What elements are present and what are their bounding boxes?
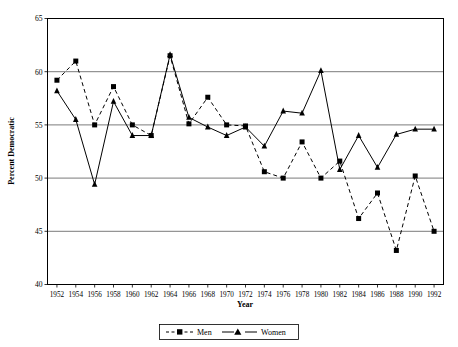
x-tick-label-1970: 1970 bbox=[219, 291, 234, 299]
x-tick-label-1992: 1992 bbox=[427, 291, 442, 299]
data-point-men-1956 bbox=[92, 122, 97, 127]
y-tick-label-60: 60 bbox=[35, 68, 43, 77]
x-tick-label-1956: 1956 bbox=[87, 291, 102, 299]
data-point-men-1974 bbox=[262, 169, 267, 174]
data-point-men-1970 bbox=[224, 122, 229, 127]
data-point-men-1968 bbox=[205, 95, 210, 100]
data-point-men-1992 bbox=[432, 229, 437, 234]
x-tick-label-1972: 1972 bbox=[238, 291, 253, 299]
data-point-men-1984 bbox=[356, 216, 361, 221]
x-tick-label-1976: 1976 bbox=[276, 291, 291, 299]
data-point-men-1978 bbox=[300, 139, 305, 144]
y-tick-label-65: 65 bbox=[35, 14, 43, 23]
legend-marker-men-square-icon bbox=[177, 329, 182, 334]
data-point-men-1966 bbox=[186, 121, 191, 126]
x-tick-label-1966: 1966 bbox=[182, 291, 197, 299]
data-point-men-1988 bbox=[394, 248, 399, 253]
data-point-men-1958 bbox=[111, 84, 116, 89]
percent-democratic-by-gender-line-chart: 404550556065 195219541956195819601962196… bbox=[0, 0, 458, 347]
data-point-men-1982 bbox=[337, 159, 342, 164]
data-point-men-1964 bbox=[168, 53, 173, 58]
x-tick-label-1964: 1964 bbox=[163, 291, 178, 299]
data-point-men-1976 bbox=[281, 176, 286, 181]
data-point-men-1962 bbox=[149, 133, 154, 138]
x-axis-tick-marks bbox=[57, 285, 434, 288]
y-tick-label-45: 45 bbox=[35, 227, 43, 236]
data-point-men-1986 bbox=[375, 191, 380, 196]
chart-container: 404550556065 195219541956195819601962196… bbox=[0, 0, 458, 347]
x-axis-title: Year bbox=[237, 300, 253, 309]
x-tick-label-1954: 1954 bbox=[69, 291, 84, 299]
y-tick-label-50: 50 bbox=[35, 174, 43, 183]
data-point-men-1990 bbox=[413, 173, 418, 178]
data-point-men-1980 bbox=[318, 176, 323, 181]
x-tick-label-1984: 1984 bbox=[351, 291, 366, 299]
x-tick-label-1978: 1978 bbox=[295, 291, 310, 299]
x-tick-label-1988: 1988 bbox=[389, 291, 404, 299]
x-tick-label-1962: 1962 bbox=[144, 291, 159, 299]
data-point-men-1952 bbox=[54, 78, 59, 83]
x-tick-label-1952: 1952 bbox=[50, 291, 65, 299]
data-point-men-1972 bbox=[243, 123, 248, 128]
y-tick-label-40: 40 bbox=[35, 280, 43, 289]
x-tick-label-1986: 1986 bbox=[370, 291, 385, 299]
x-tick-label-1960: 1960 bbox=[125, 291, 140, 299]
data-point-men-1960 bbox=[130, 122, 135, 127]
x-tick-label-1958: 1958 bbox=[106, 291, 121, 299]
x-axis-tick-labels: 1952195419561958196019621964196619681970… bbox=[50, 291, 442, 299]
y-axis-title: Percent Democratic bbox=[7, 117, 16, 185]
legend-label-men: Men bbox=[197, 328, 212, 337]
data-point-men-1954 bbox=[73, 59, 78, 64]
x-tick-label-1982: 1982 bbox=[333, 291, 348, 299]
x-tick-label-1980: 1980 bbox=[314, 291, 329, 299]
y-tick-label-55: 55 bbox=[35, 121, 43, 130]
x-tick-label-1968: 1968 bbox=[201, 291, 216, 299]
legend-label-women: Women bbox=[261, 328, 286, 337]
x-tick-label-1974: 1974 bbox=[257, 291, 272, 299]
x-tick-label-1990: 1990 bbox=[408, 291, 423, 299]
